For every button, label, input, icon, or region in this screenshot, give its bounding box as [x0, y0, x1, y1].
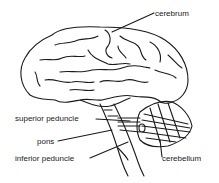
- label-cerebrum: cerebrum: [155, 10, 189, 18]
- leader-superior-peduncle: [96, 119, 130, 121]
- leader-pons: [58, 130, 112, 141]
- brainstem-outline: [100, 104, 128, 176]
- label-inferior-peduncle: inferior peduncle: [15, 155, 74, 163]
- label-pons: pons: [37, 138, 54, 146]
- leader-inferior-peduncle: [90, 142, 128, 158]
- cerebrum-outline: [21, 27, 188, 104]
- label-cerebellum: cerebellum: [162, 155, 201, 163]
- label-superior-peduncle: superior peduncle: [15, 115, 79, 123]
- brain-diagram: cerebrum superior peduncle pons inferior…: [0, 0, 219, 183]
